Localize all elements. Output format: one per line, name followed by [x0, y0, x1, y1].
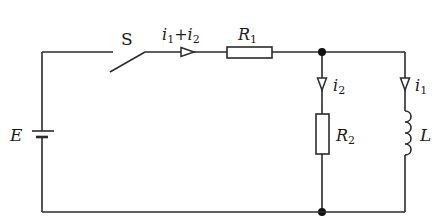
battery-icon — [32, 131, 54, 137]
current-i1-label: i1 — [415, 76, 427, 97]
r2-label: R2 — [335, 126, 355, 147]
circuit-diagram: E S i1+i2 R1 i2 R2 i1 L — [0, 0, 446, 222]
current-arrow-i2-icon — [318, 78, 327, 90]
top-branch: S i1+i2 R1 — [42, 25, 405, 72]
junction-top-icon — [318, 48, 326, 56]
inductor-label: L — [419, 125, 431, 145]
left-branch: E — [9, 52, 54, 212]
inductor-coil-icon — [405, 111, 411, 155]
resistor-r1-icon — [227, 47, 272, 58]
switch-label: S — [121, 29, 133, 49]
inductor-branch: i1 L — [401, 52, 432, 212]
switch-blade-icon — [110, 52, 145, 72]
source-label: E — [9, 125, 23, 145]
current-i2-label: i2 — [333, 76, 345, 97]
r1-label: R1 — [237, 25, 257, 46]
resistor-r2-icon — [316, 114, 329, 154]
r2-branch: i2 R2 — [316, 48, 355, 216]
current-main-label: i1+i2 — [162, 25, 200, 46]
current-arrow-i1-icon — [401, 78, 410, 90]
current-arrow-main-icon — [181, 48, 194, 57]
